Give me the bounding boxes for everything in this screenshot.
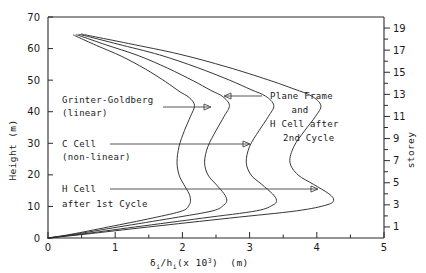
x-title-tail: ) (m) — [212, 257, 249, 268]
y2-tick-label: 1 — [393, 221, 399, 232]
y-tick-label: 0 — [34, 233, 40, 244]
y-tick-label: 50 — [27, 75, 40, 86]
y2-tick-label: 7 — [393, 155, 399, 166]
annotation-gg-line1: Grinter-Goldberg — [62, 95, 154, 105]
x-title-slash-h: /h — [160, 257, 172, 268]
x-tick-label: 5 — [381, 242, 387, 253]
annotation-plane-frame: Plane Frame and H Cell after 2nd Cycle — [270, 91, 339, 143]
annotation-ccell-line1: C Cell — [62, 139, 96, 149]
annotation-ccell-line2: (non-linear) — [62, 152, 131, 162]
annotation-hcell1-line1: H Cell — [62, 184, 96, 194]
y-tick-label: 10 — [27, 201, 40, 212]
y2-tick-label: 5 — [393, 177, 399, 188]
y-tick-label: 20 — [27, 169, 40, 180]
y2-tick-label: 3 — [393, 199, 399, 210]
annotation-pf-line3: H Cell after — [270, 119, 339, 129]
y-axis-title: Height (m) — [7, 119, 18, 180]
annotation-h-cell-1st: H Cell after 1st Cycle — [62, 184, 148, 209]
y-tick-label: 40 — [27, 106, 40, 117]
x-tick-label: 2 — [179, 242, 185, 253]
y-axis-left-ticks — [48, 17, 53, 238]
x-tick-label: 0 — [45, 242, 51, 253]
y-tick-label: 30 — [27, 138, 40, 149]
chart-figure: 010203040506070 135791113151719 012345 H… — [0, 0, 426, 273]
annotation-grinter-goldberg: Grinter-Goldberg (linear) — [62, 95, 154, 118]
chart-svg: 010203040506070 135791113151719 012345 H… — [0, 0, 426, 273]
y2-tick-label: 11 — [393, 111, 406, 122]
y2-tick-label: 15 — [393, 67, 406, 78]
y2-tick-label: 17 — [393, 45, 406, 56]
x-axis-title: δi/hi(x 103) (m) — [150, 257, 249, 271]
x-tick-label: 1 — [112, 242, 118, 253]
svg-text:δi/hi(x 103) (m): δi/hi(x 103) (m) — [150, 257, 249, 271]
y2-tick-label: 13 — [393, 89, 406, 100]
x-title-paren: (x 10 — [177, 257, 208, 268]
y2-axis-title: storey — [405, 132, 416, 169]
x-tick-label: 4 — [314, 242, 320, 253]
y-axis-right-ticks — [384, 28, 390, 227]
x-axis-labels: 012345 — [45, 242, 387, 253]
annotation-gg-line2: (linear) — [62, 108, 108, 118]
y-axis-right-labels: 135791113151719 — [393, 23, 406, 233]
y2-tick-label: 9 — [393, 133, 399, 144]
annotation-pf-line4: 2nd Cycle — [283, 133, 334, 143]
annotation-c-cell: C Cell (non-linear) — [62, 139, 131, 162]
y-tick-label: 70 — [27, 12, 40, 23]
x-tick-label: 3 — [246, 242, 252, 253]
y2-tick-label: 19 — [393, 23, 406, 34]
y-tick-label: 60 — [27, 43, 40, 54]
y-axis-left-labels: 010203040506070 — [27, 12, 40, 244]
annotation-pf-line2: and — [291, 105, 308, 115]
annotation-hcell1-line2: after 1st Cycle — [62, 199, 148, 209]
annotation-pf-line1: Plane Frame — [270, 91, 333, 101]
